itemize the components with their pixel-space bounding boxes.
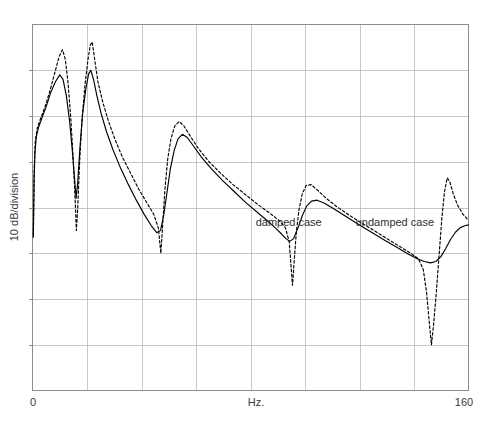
frequency-response-chart: 10 dB/division 0 Hz. 160 damped caseunda… — [0, 0, 502, 421]
chart-figure: 10 dB/division 0 Hz. 160 damped caseunda… — [0, 0, 502, 421]
damped-case-label: damped case — [256, 216, 322, 228]
x-axis-label: Hz. — [248, 396, 265, 408]
chart-annotations: damped caseundamped case — [256, 216, 434, 228]
grid-lines — [33, 25, 469, 391]
series-line-damped-case — [33, 70, 468, 263]
x-axis-tick-label-min: 0 — [30, 396, 36, 408]
x-axis-tick-label-max: 160 — [455, 396, 473, 408]
axis-ticks — [29, 71, 33, 346]
undamped-case-label: undamped case — [356, 216, 434, 228]
y-axis-label: 10 dB/division — [8, 173, 20, 242]
plot-frame — [33, 25, 469, 391]
